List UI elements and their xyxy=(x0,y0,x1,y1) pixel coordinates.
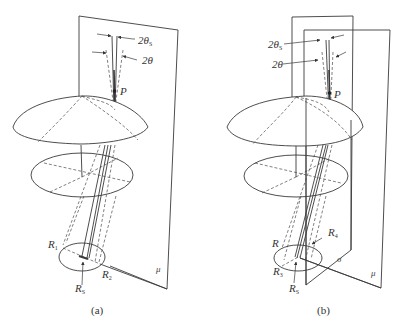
label-2theta-b: 2θ xyxy=(272,58,284,70)
caption-a: (a) xyxy=(91,304,104,317)
label-r2-a: R2 xyxy=(101,268,112,281)
rays-b xyxy=(282,145,332,262)
panel-b: 2θS 2θ P xyxy=(227,16,390,317)
upper-lens-a xyxy=(13,96,148,144)
label-rs-b: RS xyxy=(288,282,299,295)
label-r1-a: R1 xyxy=(47,238,58,251)
angle-arrows-a xyxy=(92,34,137,60)
label-p-a: P xyxy=(119,85,127,97)
label-mu-a: μ xyxy=(155,264,161,274)
panel-a: 2θS 2θ P R1 R2 RS μ xyxy=(13,16,178,317)
label-mu-b: μ xyxy=(370,268,376,278)
label-p-b: P xyxy=(333,88,341,100)
caption-b: (b) xyxy=(317,304,330,317)
angle-arrows-b xyxy=(283,35,346,64)
label-rs-a: RS xyxy=(74,282,85,295)
point-p-a xyxy=(113,89,117,93)
label-2theta-s-b: 2θS xyxy=(268,38,282,51)
point-p-b xyxy=(328,91,332,95)
label-2theta-s-a: 2θS xyxy=(138,34,152,47)
label-2theta-a: 2θ xyxy=(142,54,154,66)
label-sigma-b: σ xyxy=(337,254,342,264)
plane-mu-b xyxy=(300,30,390,288)
upper-lens-b xyxy=(227,96,363,146)
label-r4-b: R4 xyxy=(327,226,338,239)
aperture-b xyxy=(274,245,322,271)
optical-diagram: 2θS 2θ P R1 R2 RS μ xyxy=(0,0,399,323)
plane-mu-a xyxy=(79,16,178,289)
label-r-b: R xyxy=(271,237,279,249)
